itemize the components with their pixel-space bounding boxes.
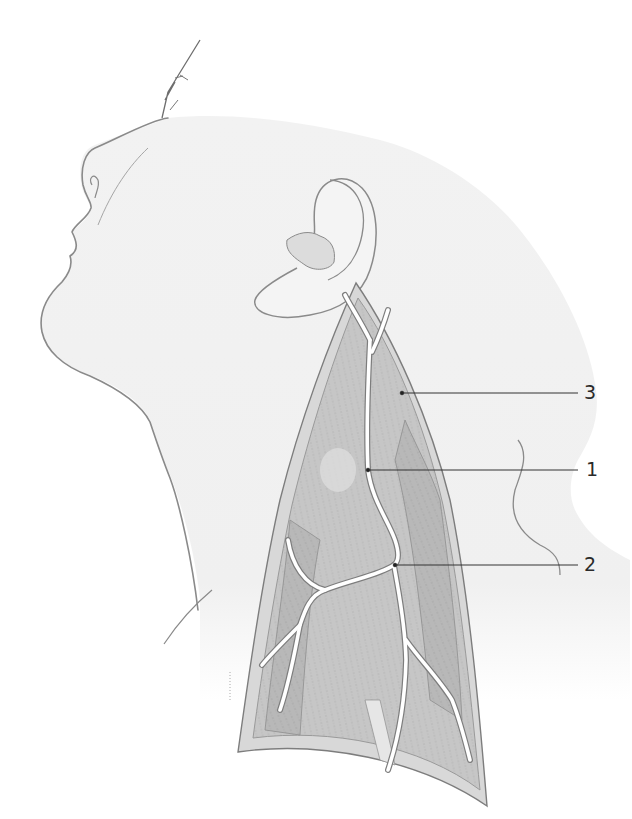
label-1: 1 xyxy=(586,460,598,479)
anatomical-illustration xyxy=(0,0,632,819)
label-2: 2 xyxy=(584,555,596,574)
label-3: 3 xyxy=(584,383,596,402)
